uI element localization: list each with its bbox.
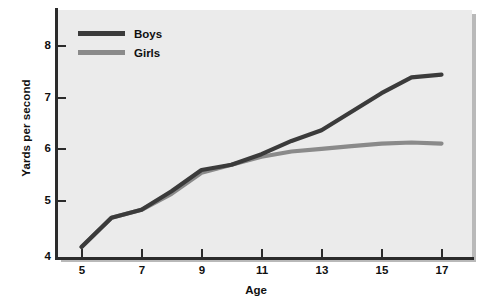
series-line-boys	[82, 75, 442, 247]
series-layer	[0, 0, 491, 306]
line-chart: Yards per second 8 7 6 5 4 5 7 9 11 13 1…	[0, 0, 491, 306]
series-line-girls	[82, 142, 442, 246]
